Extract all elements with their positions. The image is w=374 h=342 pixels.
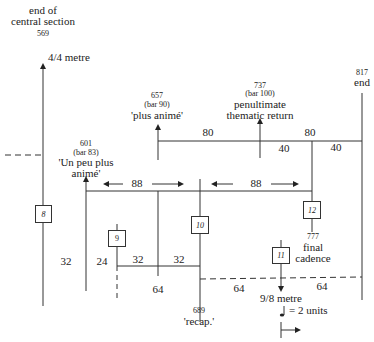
duration-32-c: 32 [174, 254, 185, 265]
duration-88-left: 88 [132, 178, 143, 189]
section-box-8: 8 [35, 205, 52, 223]
box-label: 10 [196, 221, 204, 230]
duration-40-left: 40 [279, 143, 290, 154]
section-box-11: 11 [272, 247, 290, 264]
section-box-10: 10 [191, 216, 209, 234]
label-657-bar: (bar 90) [144, 101, 170, 109]
duration-64-a: 64 [153, 284, 164, 295]
section-box-9: 9 [108, 230, 126, 247]
label-601-number: 601 [80, 140, 92, 148]
label-817-line1: end [354, 77, 370, 88]
label-metre-9-8: 9/8 metre [260, 293, 302, 304]
label-569-number: 569 [37, 30, 49, 38]
duration-64-b: 64 [234, 283, 245, 294]
label-737-bar: (bar 100) [245, 90, 275, 98]
box-label: 12 [308, 206, 316, 215]
label-777-line2: cadence [295, 253, 330, 264]
duration-88-right: 88 [251, 178, 262, 189]
duration-80-right: 80 [305, 127, 316, 138]
label-689-line1: 'recap.' [184, 316, 215, 327]
label-601-line2: animé' [72, 168, 101, 179]
label-metre-4-4: 4/4 metre [48, 52, 90, 63]
box-label: 11 [277, 251, 284, 260]
duration-64-c: 64 [317, 281, 328, 292]
label-737-line2: thematic return [227, 110, 294, 121]
label-657-number: 657 [151, 92, 163, 100]
label-unit-note: = 2 units [289, 305, 328, 316]
label-689-number: 689 [193, 307, 205, 315]
duration-80-left: 80 [203, 127, 214, 138]
quarter-note-icon [280, 306, 284, 317]
label-569-line2: central section [11, 16, 75, 27]
section-box-12: 12 [303, 201, 321, 219]
label-657-line1: 'plus animé' [131, 110, 183, 121]
label-777-number: 777 [307, 233, 319, 241]
box-label: 9 [115, 234, 119, 243]
duration-32-b: 32 [133, 254, 144, 265]
duration-24: 24 [97, 256, 108, 267]
duration-40-right: 40 [331, 142, 342, 153]
duration-32-a: 32 [61, 256, 72, 267]
box-label: 8 [42, 210, 46, 219]
